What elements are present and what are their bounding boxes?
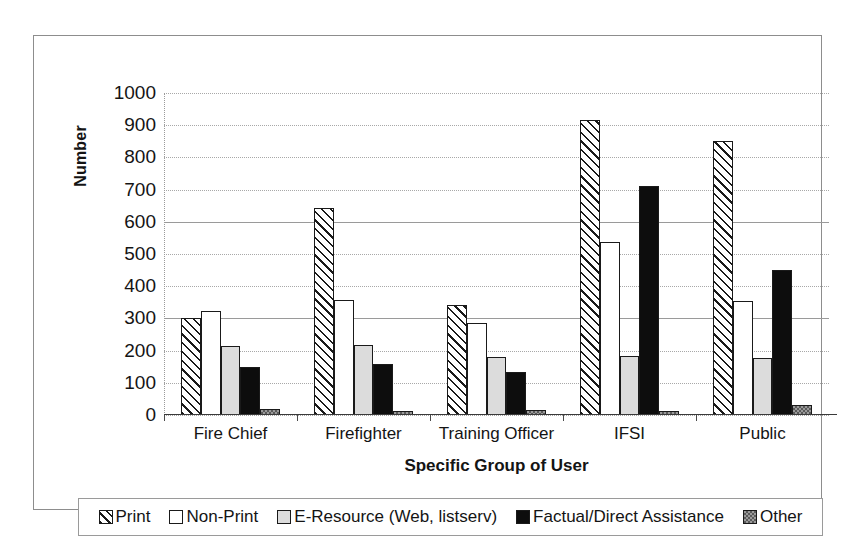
x-axis-tick-mark [430, 415, 431, 421]
legend-item[interactable]: Other [743, 508, 803, 526]
x-axis-tick-mark [696, 415, 697, 421]
bar[interactable] [467, 323, 487, 415]
y-axis-tick-label: 200 [94, 340, 156, 362]
bar[interactable] [334, 300, 354, 415]
x-axis-baseline [164, 414, 837, 415]
bar-group [430, 93, 563, 415]
bar[interactable] [354, 345, 374, 415]
legend-swatch-icon [277, 510, 291, 524]
legend-item-label: Other [760, 508, 803, 526]
legend-item-label: Print [116, 508, 151, 526]
legend-swatch-icon [516, 510, 530, 524]
bar[interactable] [221, 346, 241, 415]
y-axis-tick-label: 500 [94, 243, 156, 265]
legend-swatch-icon [743, 510, 757, 524]
legend-swatch-icon [169, 510, 183, 524]
x-axis-tick-labels: Fire ChiefFirefighterTraining OfficerIFS… [164, 424, 829, 444]
x-axis-tick-label: Public [696, 424, 829, 444]
bar[interactable] [447, 305, 467, 415]
bar[interactable] [314, 208, 334, 415]
bar-group [297, 93, 430, 415]
y-axis-tick-label: 900 [94, 114, 156, 136]
bar-groups [164, 93, 829, 415]
y-axis-tick-label: 100 [94, 372, 156, 394]
bar[interactable] [580, 120, 600, 415]
bar-group-bars [580, 93, 678, 415]
bar[interactable] [373, 364, 393, 415]
y-axis-tick-label: 600 [94, 211, 156, 233]
gridline [164, 415, 829, 416]
bar-group-bars [713, 93, 811, 415]
bar[interactable] [201, 311, 221, 415]
legend-swatch-icon [99, 510, 113, 524]
x-axis-tick-label: IFSI [563, 424, 696, 444]
bar[interactable] [733, 301, 753, 415]
bar-group-bars [314, 93, 412, 415]
y-axis-tick-label: 300 [94, 307, 156, 329]
plot-area [164, 93, 829, 415]
bar[interactable] [487, 357, 507, 415]
x-axis-tick-mark [297, 415, 298, 421]
bar-group-bars [447, 93, 545, 415]
x-axis-tick-label: Firefighter [297, 424, 430, 444]
x-axis-tick-label: Fire Chief [164, 424, 297, 444]
bar[interactable] [772, 270, 792, 415]
legend-item-label: Factual/Direct Assistance [533, 508, 724, 526]
bar[interactable] [620, 356, 640, 415]
x-axis-title: Specific Group of User [164, 456, 829, 476]
chart-figure-frame: Number 10009008007006005004003002001000 … [33, 35, 822, 510]
chart-legend: PrintNon-PrintE-Resource (Web, listserv)… [78, 498, 823, 536]
bar[interactable] [600, 242, 620, 415]
legend-item-label: Non-Print [186, 508, 258, 526]
x-axis-tick-label: Training Officer [430, 424, 563, 444]
x-axis-tick-mark [164, 415, 165, 421]
bar[interactable] [181, 318, 201, 415]
legend-item[interactable]: Print [99, 508, 151, 526]
y-axis-tick-label: 1000 [94, 82, 156, 104]
legend-item[interactable]: Non-Print [169, 508, 258, 526]
bar[interactable] [639, 186, 659, 415]
y-axis-tick-labels: 10009008007006005004003002001000 [94, 82, 156, 426]
y-axis-tick-label: 800 [94, 146, 156, 168]
y-axis-tick-label: 400 [94, 275, 156, 297]
x-axis-tick-mark [563, 415, 564, 421]
y-axis-tick-label: 0 [94, 404, 156, 426]
legend-item-label: E-Resource (Web, listserv) [294, 508, 497, 526]
bar[interactable] [753, 358, 773, 415]
legend-item[interactable]: Factual/Direct Assistance [516, 508, 724, 526]
bar-group-bars [181, 93, 279, 415]
bar[interactable] [713, 141, 733, 415]
y-axis-tick-label: 700 [94, 179, 156, 201]
legend-item[interactable]: E-Resource (Web, listserv) [277, 508, 497, 526]
bar[interactable] [240, 367, 260, 415]
bar[interactable] [506, 372, 526, 415]
bar-group [696, 93, 829, 415]
y-axis-title: Number [72, 86, 90, 226]
bar-group [563, 93, 696, 415]
bar-group [164, 93, 297, 415]
